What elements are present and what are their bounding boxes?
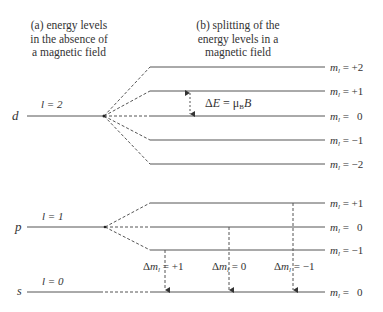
p-symbol: p	[15, 220, 22, 233]
header-a-line: in the absence of	[24, 33, 114, 47]
header-b: (b) splitting of the energy levels in a …	[193, 19, 283, 60]
ml-label: ml = 0	[330, 110, 363, 127]
d-symbol: d	[12, 109, 19, 122]
header-a: (a) energy levels in the absence of a ma…	[24, 19, 114, 60]
header-a-line: (a) energy levels	[24, 19, 114, 33]
header-b-line: magnetic field	[193, 46, 283, 60]
transition-label-plus1: Δml = +1	[143, 260, 183, 277]
ml-label: ml = −2	[330, 158, 363, 175]
ml-label: ml = +1	[330, 85, 363, 102]
ml-label: ml = 0	[330, 221, 363, 238]
transition-label-minus1: Δml = −1	[274, 260, 314, 277]
s-l-label: l = 0	[42, 275, 63, 288]
ml-label: ml = −1	[330, 134, 363, 151]
transition-label-0: Δml = 0	[212, 260, 246, 277]
ml-label: ml = +2	[330, 61, 363, 78]
zeeman-diagram: (a) energy levels in the absence of a ma…	[0, 0, 383, 312]
ml-label: ml = −1	[330, 244, 363, 261]
ml-label: ml = 0	[330, 286, 363, 303]
header-a-line: a magnetic field	[24, 46, 114, 60]
splitting-label: ΔE = μBB	[205, 97, 251, 114]
ml-label: ml = +1	[330, 197, 363, 214]
s-symbol: s	[17, 285, 22, 298]
header-b-line: (b) splitting of the	[193, 19, 283, 33]
header-b-line: energy levels in a	[193, 33, 283, 47]
p-l-label: l = 1	[42, 210, 63, 223]
d-l-label: l = 2	[41, 98, 62, 111]
